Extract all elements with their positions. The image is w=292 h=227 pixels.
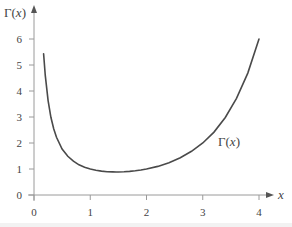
x-tick-label: 1 xyxy=(88,206,94,218)
y-tick-label: 6 xyxy=(17,33,23,45)
axes xyxy=(28,5,274,201)
x-axis-label: x xyxy=(277,187,284,202)
gamma-curve xyxy=(44,39,259,172)
bottom-strip xyxy=(0,223,292,227)
y-tick-label: 3 xyxy=(17,111,23,123)
y-tick-label: 4 xyxy=(17,85,23,97)
y-tick-label: 5 xyxy=(17,59,23,71)
y-tick-label: 1 xyxy=(17,163,23,175)
curve-label: Γ(x) xyxy=(218,134,240,149)
x-tick-label: 4 xyxy=(256,206,262,218)
y-axis-label: Γ(x) xyxy=(4,5,26,20)
gamma-function-chart: 012340123456 Γ(x) x Γ(x) xyxy=(0,0,292,227)
y-axis-arrow-icon xyxy=(31,5,37,13)
x-tick-label: 3 xyxy=(200,206,206,218)
y-tick-label: 2 xyxy=(17,137,23,149)
y-tick-label: 0 xyxy=(17,189,23,201)
x-axis-arrow-icon xyxy=(266,192,274,198)
x-tick-label: 0 xyxy=(31,206,37,218)
x-tick-label: 2 xyxy=(144,206,150,218)
